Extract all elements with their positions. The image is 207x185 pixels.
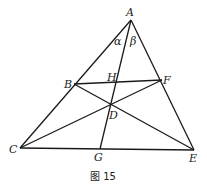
label-H: H <box>106 71 117 84</box>
label-G: G <box>94 151 103 164</box>
label-E: E <box>188 152 197 165</box>
label-D: D <box>108 109 118 122</box>
label-B: B <box>63 78 72 91</box>
label-C: C <box>9 143 18 156</box>
segment-BF <box>74 80 162 84</box>
segment-CE <box>20 148 194 150</box>
label-F: F <box>162 74 171 87</box>
figure-caption: 图 15 <box>90 171 116 182</box>
label-alpha: α <box>114 35 122 48</box>
label-A: A <box>125 6 134 19</box>
geometry-figure: A α β B H F D C G E 图 15 <box>0 0 207 185</box>
label-beta: β <box>129 35 136 48</box>
segment-CF <box>20 80 162 148</box>
